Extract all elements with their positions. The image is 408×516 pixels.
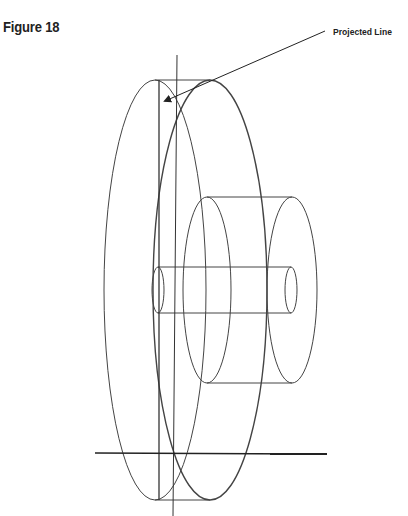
hub-right-ellipse xyxy=(267,197,317,383)
shaft-left-ellipse xyxy=(152,267,164,313)
shaft-right-ellipse xyxy=(285,267,297,313)
disc-back-ellipse xyxy=(153,80,267,500)
wireframe-drawing xyxy=(0,0,408,516)
callout-leader-arrow xyxy=(165,31,325,101)
hub-left-ellipse xyxy=(183,197,231,383)
disc-front-ellipse xyxy=(104,80,206,500)
